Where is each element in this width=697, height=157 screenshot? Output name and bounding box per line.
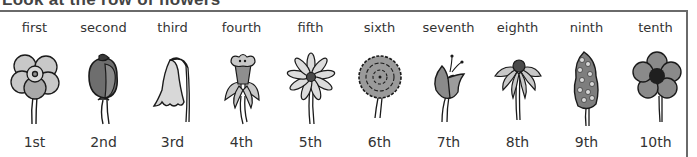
ordinal-number: 8th <box>483 134 552 150</box>
ordinal-number: 5th <box>276 134 345 150</box>
buttercup-icon <box>621 52 690 130</box>
marigold-icon <box>345 52 414 130</box>
ordinal-number: 10th <box>621 134 690 150</box>
ordinal-number: 6th <box>345 134 414 150</box>
ordinal-number: 9th <box>552 134 621 150</box>
lilac-icon <box>552 52 621 130</box>
daisy-icon <box>276 52 345 130</box>
ordinal-number: 1st <box>0 134 69 150</box>
carnation-icon <box>0 52 69 130</box>
ordinal-word: fourth <box>207 20 276 35</box>
tulip-icon <box>414 52 483 130</box>
page-heading: Look at the row of flowers <box>2 0 220 10</box>
ordinal-number: 3rd <box>138 134 207 150</box>
rose-icon <box>69 52 138 130</box>
ordinal-number: 2nd <box>69 134 138 150</box>
ordinal-word: ninth <box>552 20 621 35</box>
ordinal-number: 7th <box>414 134 483 150</box>
ordinal-numbers-row: 1st 2nd 3rd 4th 5th 6th 7th 8th 9th 10th <box>0 134 697 150</box>
coneflower-icon <box>483 52 552 130</box>
daffodil-icon <box>207 52 276 130</box>
ordinal-word: second <box>69 20 138 35</box>
ordinal-word: third <box>138 20 207 35</box>
ordinal-word: seventh <box>414 20 483 35</box>
ordinal-word: tenth <box>621 20 690 35</box>
ordinal-word: first <box>0 20 69 35</box>
ordinal-word: sixth <box>345 20 414 35</box>
bellflower-icon <box>138 52 207 130</box>
flowers-row <box>0 52 697 130</box>
ordinal-word: fifth <box>276 20 345 35</box>
ordinal-words-row: first second third fourth fifth sixth se… <box>0 20 697 35</box>
ordinal-word: eighth <box>483 20 552 35</box>
ordinal-number: 4th <box>207 134 276 150</box>
